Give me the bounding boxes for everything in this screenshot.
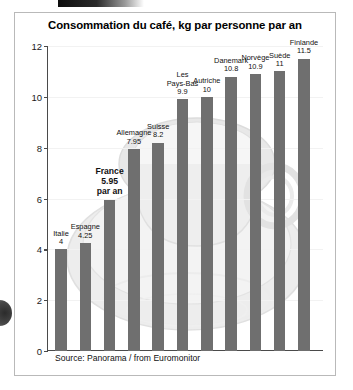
bar-label-value: 8.2 [147,131,169,139]
bar[interactable] [225,77,237,352]
y-tick-mark [44,97,48,98]
y-tick-mark [44,148,48,149]
bar-label: Suède11 [269,52,290,69]
bar-label-value: 10 [193,86,220,94]
plot-area: 024681012 Italie4Espagne4.25France5.95pa… [47,46,323,351]
y-tick-label: 8 [37,142,42,153]
chart-title: Consommation du café, kg par personne pa… [15,19,335,31]
bar[interactable] [152,143,164,351]
y-tick-mark [44,351,48,352]
bar[interactable] [55,249,67,351]
bar[interactable] [250,74,262,351]
y-tick-label: 2 [37,295,42,306]
y-tick-label: 6 [37,193,42,204]
bar[interactable] [177,99,189,351]
y-tick-mark [44,300,48,301]
decorative-edge-disc [0,300,12,326]
chart-frame: Consommation du café, kg par personne pa… [14,12,336,376]
bar-label-value: 4 [53,238,69,246]
bar-label: Autriche10 [193,77,220,94]
bar-label-value: 10.9 [241,63,269,71]
y-tick-label: 12 [31,41,42,52]
bar[interactable] [201,97,213,351]
bar-label-value: 11 [269,60,290,68]
bar-label-value: 5.95 [96,176,124,186]
bar-label-value: 11.5 [290,47,318,55]
bar[interactable] [128,149,140,351]
y-tick-label: 0 [37,346,42,357]
decorative-top-slab [58,0,144,7]
bar-label: Finlande11.5 [290,39,318,56]
y-tick-label: 4 [37,244,42,255]
bar-label-note: par an [96,186,124,196]
source-note: Source: Panorama / from Euromonitor [55,353,200,363]
bar-label-value: 4.25 [71,232,100,240]
bar-label-category: France [96,166,124,176]
gridline [48,46,323,47]
y-tick-label: 10 [31,91,42,102]
bar-label: Norvège10.9 [241,54,269,71]
bar-label: Italie4 [53,230,69,247]
bar-label: Espagne4.25 [71,223,100,240]
y-tick-mark [44,249,48,250]
y-tick-mark [44,46,48,47]
y-tick-mark [44,199,48,200]
bar[interactable] [274,71,286,351]
bar[interactable] [80,243,92,351]
bar-label: Suisse8.2 [147,123,169,140]
bar-label: France5.95par an [96,166,124,197]
bar[interactable] [104,200,116,351]
bar[interactable] [298,59,310,351]
